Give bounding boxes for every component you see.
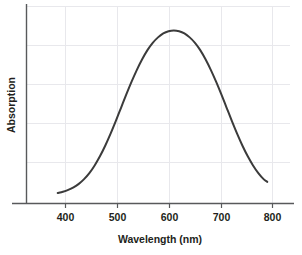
x-tick-label-400: 400 xyxy=(57,211,75,223)
x-tick-label-700: 700 xyxy=(213,211,231,223)
x-axis-title: Wavelength (nm) xyxy=(118,233,202,245)
absorption-spectrum-figure: 400 500 600 700 800 Wavelength (nm) Abso… xyxy=(0,0,302,255)
x-tick-label-600: 600 xyxy=(161,211,179,223)
x-tick-label-500: 500 xyxy=(109,211,127,223)
x-tick-label-800: 800 xyxy=(264,211,282,223)
y-axis-title: Absorption xyxy=(5,77,17,133)
chart-canvas: 400 500 600 700 800 Wavelength (nm) Abso… xyxy=(0,0,302,255)
